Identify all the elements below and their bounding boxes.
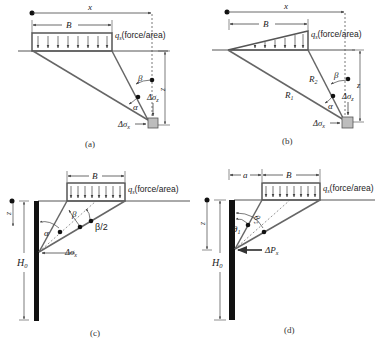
svg-text:β/2: β/2 xyxy=(95,222,108,232)
z-label: z xyxy=(159,87,168,92)
panel-a: x B qs(force/area) β α xyxy=(18,2,170,149)
svg-text:B: B xyxy=(92,171,98,181)
B-label: B xyxy=(66,20,72,30)
svg-text:ΔPx: ΔPx xyxy=(264,245,279,256)
uniform-load xyxy=(32,33,112,51)
retaining-wall xyxy=(34,201,39,321)
alpha-label: α xyxy=(133,102,138,112)
caption-c: (c) xyxy=(90,328,100,338)
svg-text:Δσx: Δσx xyxy=(312,118,325,129)
svg-text:qs(force/area): qs(force/area) xyxy=(128,184,179,195)
caption-a: (a) xyxy=(85,139,95,149)
svg-text:Δσz: Δσz xyxy=(341,91,354,102)
retaining-wall xyxy=(229,200,235,320)
load-arrows xyxy=(38,36,107,48)
svg-text:β: β xyxy=(71,209,77,219)
caption-d: (d) xyxy=(284,325,295,335)
svg-text:a: a xyxy=(243,170,248,180)
svg-text:α: α xyxy=(328,101,333,111)
triangular-load xyxy=(228,31,308,50)
svg-text:B: B xyxy=(263,19,269,29)
caption-b: (b) xyxy=(282,136,293,146)
svg-text:B: B xyxy=(286,170,292,180)
svg-text:β: β xyxy=(333,70,339,80)
dsx-label: Δσx xyxy=(117,119,130,130)
panel-b: x B qs(force/area) R1 R2 β α z xyxy=(212,1,364,146)
panel-d: a B qs(force/area) z H0 xyxy=(199,169,375,335)
svg-text:θ2: θ2 xyxy=(251,213,264,225)
svg-text:Δσx: Δσx xyxy=(64,247,77,258)
svg-text:qs(force/area): qs(force/area) xyxy=(311,29,362,40)
load-label: qs(force/area) xyxy=(115,30,166,41)
svg-text:θ1: θ1 xyxy=(233,224,240,235)
beta-label: β xyxy=(137,73,143,83)
panel-c: B qs(force/area) z H0 α β xyxy=(5,171,190,338)
svg-text:qs(force/area): qs(force/area) xyxy=(323,183,374,194)
soil-element xyxy=(148,118,158,128)
dsz-label: Δσz xyxy=(146,92,159,103)
svg-text:R1: R1 xyxy=(284,90,294,101)
svg-text:R2: R2 xyxy=(308,74,318,85)
svg-text:α: α xyxy=(44,228,49,238)
svg-text:x: x xyxy=(283,1,288,11)
svg-text:H0: H0 xyxy=(211,257,223,269)
svg-text:H0: H0 xyxy=(16,257,28,269)
stress-diagrams-figure: x B qs(force/area) β α xyxy=(0,0,379,342)
x-label: x xyxy=(87,2,92,12)
